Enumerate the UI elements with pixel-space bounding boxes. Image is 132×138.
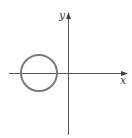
x-axis-label: x (120, 74, 127, 87)
y-axis-arrow-icon (66, 12, 71, 19)
y-axis-label: y (58, 9, 66, 22)
coordinate-plane: x y (0, 0, 132, 138)
